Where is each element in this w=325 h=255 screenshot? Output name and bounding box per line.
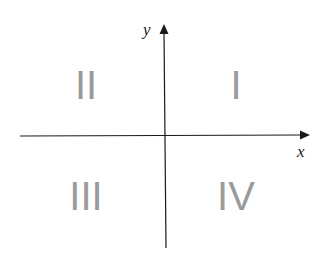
x-axis-arrow-icon — [300, 131, 310, 140]
y-axis-label: y — [141, 20, 151, 39]
y-axis-arrow-icon — [160, 24, 169, 34]
quadrant-II-label: II — [75, 63, 97, 107]
x-axis — [20, 135, 302, 136]
quadrant-IV-label: IV — [217, 174, 255, 218]
x-axis-label: x — [296, 142, 305, 161]
coordinate-plane: y x I II III IV — [0, 0, 325, 255]
y-axis — [164, 32, 166, 248]
quadrant-III-label: III — [69, 174, 102, 218]
quadrant-I-label: I — [230, 63, 241, 107]
